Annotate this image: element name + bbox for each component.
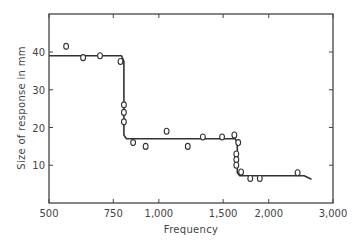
x-tick-label: 1,500: [209, 208, 238, 219]
y-tick-label: 30: [32, 85, 45, 96]
data-point-marker: [200, 134, 205, 140]
data-point-marker: [131, 140, 136, 146]
data-point-marker: [81, 55, 86, 61]
y-tick-label: 10: [32, 160, 45, 171]
data-point-marker: [164, 128, 169, 134]
data-point-marker: [121, 102, 126, 108]
axes-box: [49, 14, 333, 203]
y-axis-title: Size of response in mm: [16, 46, 27, 170]
data-point-marker: [98, 53, 103, 59]
data-point-marker: [234, 162, 239, 168]
data-point-marker: [185, 143, 190, 149]
x-axis-ticks: 5007501,0001,5002,0003,000: [39, 14, 347, 219]
x-tick-label: 750: [104, 208, 123, 219]
step-response-chart: 5007501,0001,5002,0003,000 10203040 Freq…: [0, 0, 363, 245]
y-tick-label: 20: [32, 123, 45, 134]
step-curve: [49, 56, 312, 179]
x-tick-label: 1,000: [145, 208, 174, 219]
data-point-marker: [236, 140, 241, 146]
data-point-marker: [257, 175, 262, 181]
data-point-marker: [143, 143, 148, 149]
y-axis-ticks: 10203040: [32, 47, 333, 171]
x-axis-title: Frequency: [164, 224, 218, 235]
data-point-marker: [234, 151, 239, 157]
data-point-marker: [220, 134, 225, 140]
data-points: [64, 43, 300, 181]
data-point-marker: [239, 169, 244, 175]
data-point-marker: [64, 43, 69, 49]
data-point-marker: [232, 132, 237, 138]
data-point-marker: [121, 119, 126, 125]
x-tick-label: 3,000: [319, 208, 348, 219]
data-point-marker: [234, 157, 239, 163]
data-point-marker: [295, 170, 300, 176]
x-tick-label: 500: [39, 208, 58, 219]
y-tick-label: 40: [32, 47, 45, 58]
x-tick-label: 2,000: [254, 208, 283, 219]
data-point-marker: [121, 109, 126, 115]
plot-frame: [49, 14, 333, 203]
data-point-marker: [248, 175, 253, 181]
data-point-marker: [118, 58, 123, 64]
fitted-curve: [49, 56, 312, 179]
